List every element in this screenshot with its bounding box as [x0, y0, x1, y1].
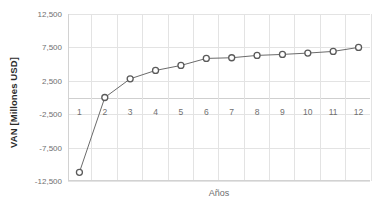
- data-point-marker: [102, 95, 108, 101]
- y-tick-label: -7,500: [0, 143, 62, 152]
- data-point-marker: [356, 44, 362, 50]
- data-point-marker: [76, 169, 82, 175]
- y-tick-label: 12,500: [0, 10, 62, 19]
- data-point-marker: [127, 76, 133, 82]
- y-tick-label: 2,500: [0, 76, 62, 85]
- data-point-marker: [330, 48, 336, 54]
- y-tick-label: 7,500: [0, 43, 62, 52]
- chart-container: VAN [Millones USD] 12,5007,5002,500-2,50…: [0, 0, 382, 205]
- gridline-vertical: [371, 14, 372, 181]
- data-point-marker: [203, 55, 209, 61]
- x-axis-title: Años: [68, 188, 370, 198]
- data-point-marker: [279, 51, 285, 57]
- plot-area: [68, 14, 370, 181]
- series-line-van: [79, 47, 358, 172]
- y-axis-tick-labels: 12,5007,5002,500-2,500-7,500-12,500: [0, 14, 64, 181]
- data-point-marker: [229, 55, 235, 61]
- data-point-marker: [254, 52, 260, 58]
- y-tick-label: -2,500: [0, 110, 62, 119]
- data-point-marker: [153, 67, 159, 73]
- data-series-line: [68, 14, 370, 181]
- data-point-marker: [178, 62, 184, 68]
- gridline-horizontal: [68, 181, 370, 182]
- data-point-marker: [305, 50, 311, 56]
- y-tick-label: -12,500: [0, 177, 62, 186]
